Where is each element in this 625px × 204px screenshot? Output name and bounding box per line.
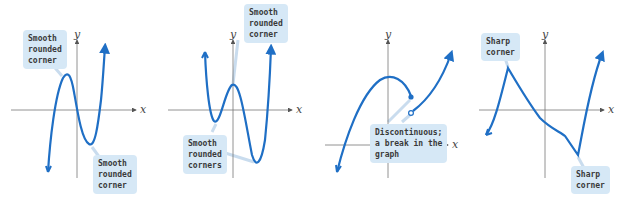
y-axis-label: y — [74, 28, 80, 41]
y-axis-label: y — [385, 28, 391, 41]
leader-line — [212, 124, 216, 132]
leader-line — [233, 40, 238, 84]
filled-endpoint — [408, 94, 413, 99]
x-axis-label: x — [296, 103, 302, 116]
x-axis-label: x — [452, 138, 458, 151]
callout-smooth-rounded-corner: Smooth rounded corner — [23, 30, 67, 69]
curve-right — [413, 54, 451, 111]
y-axis-label: y — [230, 28, 236, 41]
callout-sharp-corner: Sharp corner — [481, 33, 520, 61]
callout-sharp-corner: Sharp corner — [571, 166, 610, 194]
leader-line — [402, 115, 410, 122]
callout-smooth-rounded-corners: Smooth rounded corners — [183, 135, 227, 174]
curve — [486, 54, 602, 155]
x-axis-label: x — [608, 103, 614, 116]
x-axis-label: x — [140, 103, 146, 116]
callout-smooth-rounded-corner: Smooth rounded corner — [244, 4, 288, 43]
open-endpoint — [409, 111, 414, 116]
callout-smooth-rounded-corner: Smooth rounded corner — [93, 155, 137, 194]
leader-line — [222, 152, 254, 162]
y-axis-label: y — [542, 28, 548, 41]
callout-discontinuous: Discontinuous; a break in the graph — [370, 124, 447, 163]
